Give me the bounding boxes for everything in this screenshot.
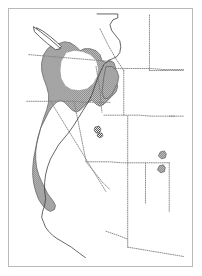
range-polygon-isolated-patch-new-mexico [157,165,165,173]
state-border-mt-wy [116,69,187,70]
state-border-nv-ut [74,102,86,162]
range-polygon-isolated-patch-utah-b [97,133,103,138]
range-polygon-isolated-patch-utah-a [94,126,101,133]
range-polygon-isolated-patch-colorado [158,151,166,159]
distribution-map-figure: Western United States species distributi… [0,0,202,276]
map-canvas [9,9,192,266]
state-border-ca-nv [51,101,106,191]
range-shading-layer [33,42,167,212]
state-border-wy-co-ut [104,115,175,116]
state-border-nv-az [86,162,110,190]
state-border-southern-border [128,247,187,257]
state-border-az-mexico [106,231,128,239]
vancouver-island-outline [34,27,61,50]
map-frame [8,8,193,267]
